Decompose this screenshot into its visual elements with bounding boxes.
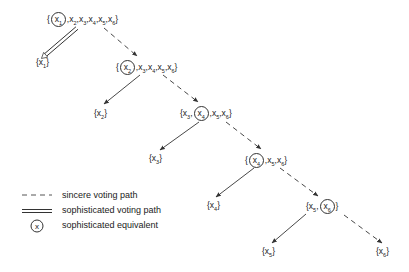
circled-alternative: x2 [120, 60, 135, 75]
alternative: x5 [98, 14, 105, 24]
edge-dashed-n2-n3 [163, 75, 198, 102]
legend-label-sincere: sincere voting path [62, 190, 138, 201]
node-n6leaf: {x6} [376, 245, 389, 261]
alternative: x6 [222, 108, 229, 118]
edge-dashed-n4-n5 [280, 168, 318, 196]
edge-dashed-n5-n6leaf [344, 215, 382, 243]
circled-alternative: x1 [51, 12, 66, 27]
alternative: x2 [69, 14, 76, 24]
alternative: x6 [277, 155, 284, 165]
circled-alternative: x4 [194, 106, 209, 121]
alternative: x5 [309, 201, 316, 211]
alternative: x5 [265, 246, 272, 256]
alternative: x5 [267, 155, 274, 165]
node-n5: {x5,x6} [306, 199, 338, 215]
edge-solid-n4-n4leaf [216, 168, 254, 197]
edge-double-root-n1 [44, 27, 76, 54]
alternative: x3 [79, 14, 86, 24]
edge-solid-n3-n3leaf [160, 122, 199, 150]
node-n2: {x2,x3,x4,x5,x6} [116, 60, 177, 76]
alternative: x3 [138, 62, 145, 72]
alternative: x6 [108, 14, 115, 24]
node-n1: {x1} [36, 56, 49, 72]
alternative: x4 [148, 62, 155, 72]
alternative: x5 [212, 108, 219, 118]
node-n2leaf: {x2} [94, 107, 107, 123]
edge-dashed-root-n2 [104, 28, 137, 56]
node-root: {x1,x2,x3,x4,x5,x6} [47, 12, 118, 28]
alternative: x1 [39, 57, 46, 67]
circled-alternative: x4 [249, 153, 264, 168]
tree-edges: x [0, 0, 409, 272]
node-n4leaf: {x4} [207, 199, 220, 215]
alternative: x4 [210, 200, 217, 210]
alternative: x2 [97, 108, 104, 118]
alternative: x6 [379, 246, 386, 256]
circled-alternative: x6 [320, 199, 335, 214]
alternative: x4 [89, 14, 96, 24]
node-n4: {x4,x5,x6} [245, 153, 287, 169]
node-n3: {x3,x4,x5,x6} [180, 106, 232, 122]
alternative: x5 [158, 62, 165, 72]
edge-solid-n5-n5leaf [272, 214, 306, 243]
svg-text:x: x [35, 222, 39, 231]
node-n5leaf: {x5} [262, 245, 275, 261]
legend-label-sophisticated-equivalent: sophisticated equivalent [62, 220, 158, 231]
edge-solid-n2-n2leaf [104, 75, 140, 104]
node-n3leaf: {x3} [149, 152, 162, 168]
legend-symbols: x [22, 195, 52, 232]
edge-double-root-n1 [46, 29, 78, 56]
alternative: x6 [167, 62, 174, 72]
alternative: x3 [152, 153, 159, 163]
alternative: x3 [183, 108, 190, 118]
edge-dashed-n3-n4 [226, 122, 261, 149]
legend-label-sophisticated-path: sophisticated voting path [62, 205, 161, 216]
